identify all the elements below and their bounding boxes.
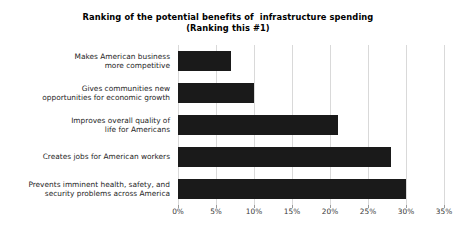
- x-tick-label: 30%: [398, 207, 414, 217]
- category-label: Creates jobs for American workers: [0, 141, 174, 173]
- x-tick-label: 25%: [360, 207, 376, 217]
- bar[interactable]: [178, 83, 254, 103]
- category-axis-labels: Makes American businessmore competitiveG…: [0, 45, 174, 205]
- category-label-line: Gives communities new: [0, 84, 170, 93]
- bar-slot: [178, 141, 444, 173]
- category-label-line: Creates jobs for American workers: [0, 152, 170, 161]
- category-label-line: security problems across America: [0, 189, 170, 198]
- bar-slot: [178, 45, 444, 77]
- x-tick-label: 35%: [436, 207, 452, 217]
- bar-slot: [178, 173, 444, 205]
- category-label: Prevents imminent health, safety, andsec…: [0, 173, 174, 205]
- bar[interactable]: [178, 179, 406, 199]
- category-label-line: Improves overall quality of: [0, 116, 170, 125]
- category-label: Makes American businessmore competitive: [0, 45, 174, 77]
- x-tick-label: 5%: [210, 207, 222, 217]
- x-tick-label: 15%: [284, 207, 300, 217]
- category-label-line: Prevents imminent health, safety, and: [0, 180, 170, 189]
- category-label: Improves overall quality oflife for Amer…: [0, 109, 174, 141]
- x-tick-label: 0%: [172, 207, 184, 217]
- chart-title-line-2: (Ranking this #1): [0, 23, 456, 34]
- chart-title: Ranking of the potential benefits of inf…: [0, 12, 456, 34]
- category-label-line: more competitive: [0, 61, 170, 70]
- bar-series: [178, 45, 444, 205]
- chart-figure: Ranking of the potential benefits of inf…: [0, 0, 456, 233]
- x-axis-tick-labels: 0%5%10%15%20%25%30%35%: [178, 207, 444, 219]
- category-label-line: life for Americans: [0, 125, 170, 134]
- category-label-line: opportunities for economic growth: [0, 93, 170, 102]
- category-label-line: Makes American business: [0, 52, 170, 61]
- bar-slot: [178, 77, 444, 109]
- gridline-35%: [444, 45, 445, 205]
- bar[interactable]: [178, 51, 231, 71]
- chart-title-line-1: Ranking of the potential benefits of inf…: [0, 12, 456, 23]
- bar[interactable]: [178, 147, 391, 167]
- plot-area: [178, 45, 444, 205]
- x-tick-label: 10%: [246, 207, 262, 217]
- category-label: Gives communities newopportunities for e…: [0, 77, 174, 109]
- bar[interactable]: [178, 115, 338, 135]
- x-tick-label: 20%: [322, 207, 338, 217]
- bar-slot: [178, 109, 444, 141]
